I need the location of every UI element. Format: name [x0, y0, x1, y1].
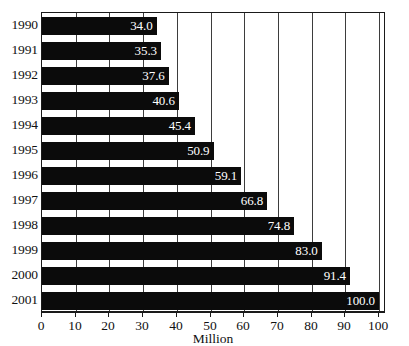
x-axis-tick	[311, 312, 312, 317]
y-axis-category-labels: 1990199119921993199419951996199719981999…	[0, 12, 38, 312]
bar-row: 35.3	[42, 42, 384, 60]
y-axis-label: 2001	[0, 293, 38, 307]
bar-value-label: 91.4	[42, 268, 346, 284]
bar-row: 34.0	[42, 17, 384, 35]
y-axis-label: 1998	[0, 218, 38, 232]
bar-row: 37.6	[42, 67, 384, 85]
y-axis-label: 1994	[0, 118, 38, 132]
x-axis-tick	[243, 312, 244, 317]
bar-row: 83.0	[42, 242, 384, 260]
x-axis-tick	[176, 312, 177, 317]
x-axis-tick	[378, 312, 379, 317]
x-axis-tick	[277, 312, 278, 317]
bar-value-label: 74.8	[42, 218, 290, 234]
bar-row: 100.0	[42, 292, 384, 310]
bar-row: 50.9	[42, 142, 384, 160]
bar-value-label: 66.8	[42, 193, 263, 209]
bar-value-label: 59.1	[42, 168, 237, 184]
x-axis-tick	[142, 312, 143, 317]
y-axis-label: 1995	[0, 143, 38, 157]
bar-value-label: 35.3	[42, 43, 157, 59]
bar-row: 66.8	[42, 192, 384, 210]
y-axis-label: 1997	[0, 193, 38, 207]
x-axis-tick	[108, 312, 109, 317]
bar-row: 45.4	[42, 117, 384, 135]
y-axis-label: 2000	[0, 268, 38, 282]
bar-row: 74.8	[42, 217, 384, 235]
x-axis-tick	[210, 312, 211, 317]
y-axis-label: 1991	[0, 43, 38, 57]
x-axis-title: Million	[41, 331, 385, 346]
bar-value-label: 45.4	[42, 118, 191, 134]
bar-row: 40.6	[42, 92, 384, 110]
bar-value-label: 34.0	[42, 18, 153, 34]
bar-value-label: 40.6	[42, 93, 175, 109]
y-axis-label: 1999	[0, 243, 38, 257]
x-axis-tick	[41, 312, 42, 317]
x-axis-tick	[344, 312, 345, 317]
bar-value-label: 83.0	[42, 243, 318, 259]
x-axis-tick	[75, 312, 76, 317]
bar-value-label: 100.0	[42, 293, 375, 309]
y-axis-label: 1990	[0, 18, 38, 32]
bar-row: 59.1	[42, 167, 384, 185]
y-axis-label: 1993	[0, 93, 38, 107]
y-axis-label: 1996	[0, 168, 38, 182]
bar-value-label: 37.6	[42, 68, 165, 84]
plot-area: 34.035.337.640.645.450.959.166.874.883.0…	[41, 12, 385, 312]
bar-chart: 1990199119921993199419951996199719981999…	[0, 0, 409, 346]
bar-value-label: 50.9	[42, 143, 210, 159]
bars-layer: 34.035.337.640.645.450.959.166.874.883.0…	[42, 13, 384, 311]
bar-row: 91.4	[42, 267, 384, 285]
y-axis-label: 1992	[0, 68, 38, 82]
